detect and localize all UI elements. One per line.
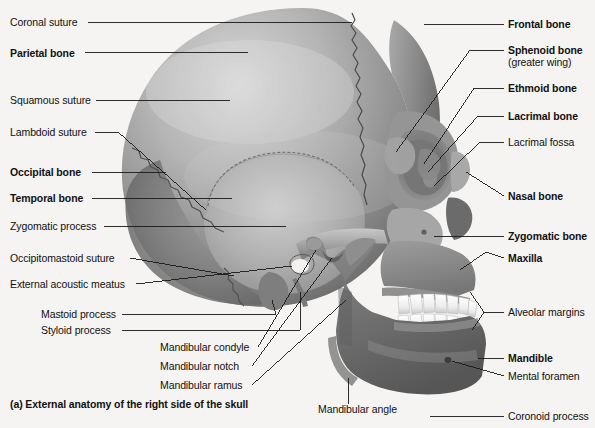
label-sphenoid-bone: Sphenoid bone [508,44,583,56]
label-occipitomastoid-suture: Occipitomastoid suture [10,252,115,264]
label-lambdoid-suture: Lambdoid suture [10,126,87,138]
nasal-aperture [446,198,472,240]
label-zygomatic-process: Zygomatic process [10,220,96,232]
label-ethmoid-bone: Ethmoid bone [508,82,577,94]
label-squamous-suture: Squamous suture [10,94,91,106]
label-mandible: Mandible [508,352,553,364]
label-styloid-process: Styloid process [41,324,111,336]
mandibular-ramus-shade [338,286,352,346]
leader-nasal-bone [466,172,504,196]
skull-illustration [0,0,595,428]
label-coronoid-process: Coronoid process [508,410,589,422]
skull-anatomy-figure: Coronal suture Parietal bone Squamous su… [0,0,595,428]
cranium-group [122,8,416,307]
label-mandibular-ramus: Mandibular ramus [160,379,242,391]
label-mandibular-angle: Mandibular angle [318,403,397,415]
label-nasal-bone: Nasal bone [508,190,563,202]
label-occipital-bone: Occipital bone [10,166,81,178]
label-external-acoustic-meatus: External acoustic meatus [10,278,125,290]
nasal-bone-shape [451,152,471,192]
label-lacrimal-bone: Lacrimal bone [508,110,578,122]
label-temporal-bone: Temporal bone [10,192,83,204]
label-sphenoid-sub: (greater wing) [508,56,571,68]
mandibular-condyle-head [306,238,322,250]
label-mandibular-notch: Mandibular notch [160,360,239,372]
label-lacrimal-fossa: Lacrimal fossa [508,136,574,148]
label-mental-foramen: Mental foramen [508,370,580,382]
label-frontal-bone: Frontal bone [508,18,570,30]
label-zygomatic-bone: Zygomatic bone [508,230,587,242]
figure-caption: (a) External anatomy of the right side o… [10,398,248,410]
label-mastoid-process: Mastoid process [41,308,116,320]
parietal-highlight [146,40,354,144]
label-parietal-bone: Parietal bone [10,47,75,59]
label-maxilla: Maxilla [508,252,542,264]
zygomaticofacial-foramen [421,229,426,234]
label-alveolar-margins: Alveolar margins [508,306,585,318]
label-mandibular-condyle: Mandibular condyle [160,341,249,353]
label-coronal-suture: Coronal suture [10,16,77,28]
mental-foramen-opening [445,357,452,363]
